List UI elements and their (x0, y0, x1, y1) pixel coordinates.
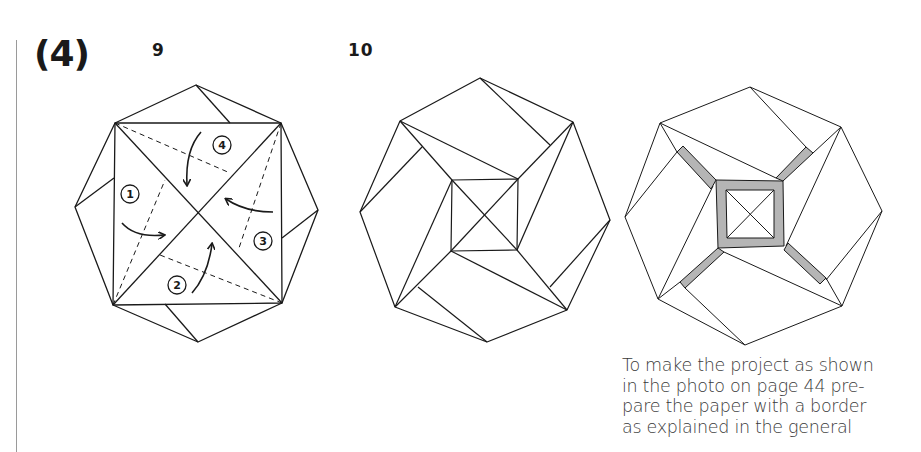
figure-9-diagram (75, 85, 318, 342)
arrow-4-icon (187, 132, 201, 185)
step-marker-2-label: 2 (173, 279, 181, 292)
step-marker-4-label: 4 (218, 139, 226, 152)
shaded-strip-ll (680, 248, 724, 288)
arrow-1-icon (122, 223, 164, 236)
step-marker-3-label: 3 (259, 235, 267, 248)
caption-line: To make the project as shown (622, 355, 921, 376)
shaded-strip-lr (784, 243, 826, 284)
caption-line: in the photo on page 44 pre- (622, 376, 921, 397)
step-marker-1-label: 1 (126, 188, 134, 201)
shaded-strip-ur (776, 147, 813, 181)
caption-line: pare the paper with a border (622, 396, 921, 417)
figure-finished-diagram (625, 87, 882, 345)
caption-line: as explained in the general (622, 417, 921, 438)
figure-10-diagram (360, 78, 610, 342)
shaded-strip-ul (677, 146, 716, 189)
arrow-3-icon (226, 199, 273, 212)
instruction-caption: To make the project as shown in the phot… (622, 355, 921, 437)
octagon-outline (625, 87, 882, 345)
